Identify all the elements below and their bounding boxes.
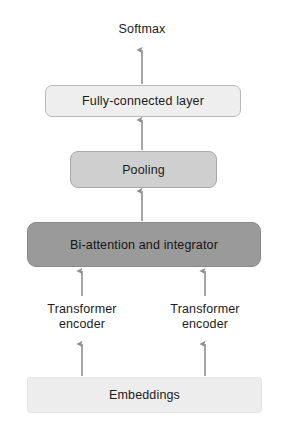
architecture-diagram: Softmax Fully-connected layer Pooling Bi…: [0, 0, 282, 422]
node-fully-connected-layer: Fully-connected layer: [45, 85, 241, 117]
node-pooling-label: Pooling: [122, 163, 165, 177]
node-bi-attention-and-integrator-label: Bi-attention and integrator: [70, 238, 218, 252]
node-fully-connected-layer-label: Fully-connected layer: [82, 94, 204, 108]
node-embeddings: Embeddings: [27, 377, 262, 413]
node-bi-attention-and-integrator: Bi-attention and integrator: [27, 222, 261, 267]
node-transformer-encoder-right: Transformer encoder: [155, 302, 255, 332]
node-transformer-encoder-left: Transformer encoder: [32, 302, 132, 332]
node-softmax: Softmax: [71, 22, 213, 37]
arrow-layer: [0, 0, 282, 422]
node-pooling: Pooling: [70, 151, 217, 188]
node-embeddings-label: Embeddings: [109, 388, 180, 402]
